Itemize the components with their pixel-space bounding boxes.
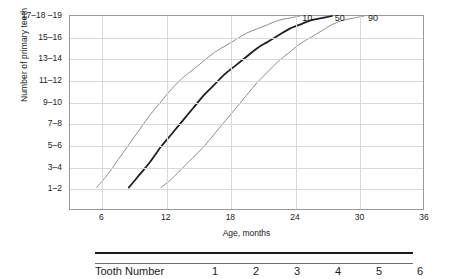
percentile-curves [70,16,423,209]
curve-label-10: 10 [302,13,312,23]
gridline-horizontal [70,189,423,190]
y-tick-label: 11–12 [39,76,62,85]
y-tick-label: 13–14 [38,54,62,63]
tooth-number-column: 4 [335,265,341,277]
gridline-horizontal [70,146,423,147]
x-tick-label: 18 [226,212,235,222]
tooth-number-column: 1 [212,265,218,277]
table-top-rule [95,252,413,254]
y-tick-label: 3–4 [48,162,62,171]
x-tick-label: 30 [355,212,364,222]
x-tick-label: 36 [419,212,428,222]
tooth-number-column: 5 [376,265,382,277]
x-tick-label: 24 [290,212,299,222]
table-row: Tooth Number 1234567 [95,265,435,279]
gridline-horizontal [70,124,423,125]
x-axis-title: Age, months [69,228,424,238]
gridline-vertical [167,16,168,209]
gridline-vertical [231,16,232,209]
tooth-number-column: 3 [294,265,300,277]
plot-area: 105090 [69,15,424,210]
tooth-number-column: 6 [417,265,423,277]
gridline-vertical [102,16,103,209]
x-tick-label: 6 [99,212,104,222]
gridline-vertical [296,16,297,209]
table-header-rule [95,263,413,264]
gridline-horizontal [70,59,423,60]
gridline-vertical [360,16,361,209]
y-tick-label: 9–10 [43,97,62,106]
curve-label-50: 50 [335,13,345,23]
tooth-number-label: Tooth Number [95,265,164,277]
tooth-number-column: 2 [253,265,259,277]
primary-teeth-eruption-chart: Number of primary teeth 1–23–45–67–89–10… [0,0,452,240]
y-tick-label: 15–16 [38,32,62,41]
x-tick-label: 12 [161,212,170,222]
gridline-horizontal [70,103,423,104]
y-tick-label: 17–18 –19 [22,11,62,20]
y-tick-label: 5–6 [48,141,62,150]
gridline-horizontal [70,81,423,82]
y-tick-label: 7–8 [48,119,62,128]
gridline-horizontal [70,38,423,39]
y-axis-tick-labels: 1–23–45–67–89–1011–1213–1415–1617–18 –19 [0,15,66,210]
y-tick-label: 1–2 [48,184,62,193]
curve-label-90: 90 [368,13,378,23]
x-axis-tick-labels: 61218243036 [69,212,424,226]
gridline-horizontal [70,168,423,169]
tooth-number-table: Tooth Number 1234567 [0,252,452,279]
